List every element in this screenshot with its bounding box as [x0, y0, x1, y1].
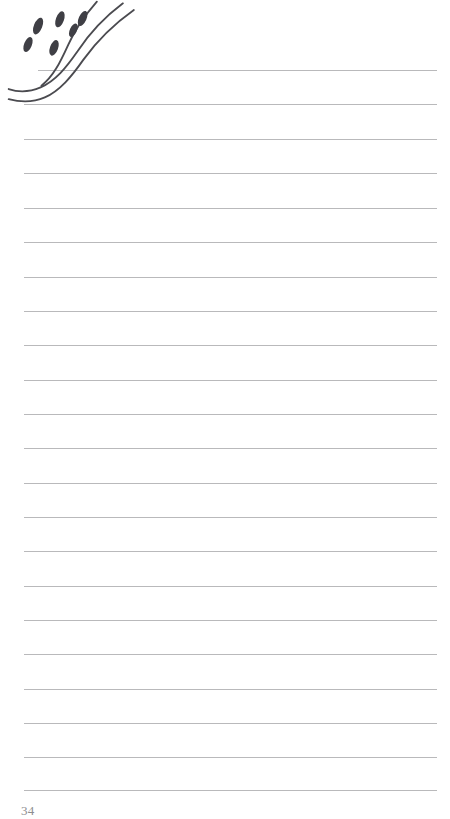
- rule-line: [24, 790, 437, 791]
- rule-line: [24, 311, 437, 312]
- rule-line: [24, 757, 437, 758]
- rule-line: [24, 139, 437, 140]
- rule-line: [24, 380, 437, 381]
- notebook-page: 34: [0, 0, 450, 819]
- rule-line: [24, 448, 437, 449]
- rule-line: [24, 208, 437, 209]
- rule-line: [38, 70, 437, 71]
- rule-line: [24, 517, 437, 518]
- ruled-lines-layer: [0, 0, 450, 819]
- rule-line: [24, 483, 437, 484]
- rule-line: [24, 620, 437, 621]
- rule-line: [24, 104, 437, 105]
- rule-line: [24, 173, 437, 174]
- rule-line: [24, 345, 437, 346]
- rule-line: [24, 654, 437, 655]
- rule-line: [24, 414, 437, 415]
- rule-line: [24, 551, 437, 552]
- rule-line: [24, 723, 437, 724]
- rule-line: [24, 242, 437, 243]
- rule-line: [24, 586, 437, 587]
- page-number: 34: [21, 803, 34, 818]
- rule-line: [24, 277, 437, 278]
- rule-line: [24, 689, 437, 690]
